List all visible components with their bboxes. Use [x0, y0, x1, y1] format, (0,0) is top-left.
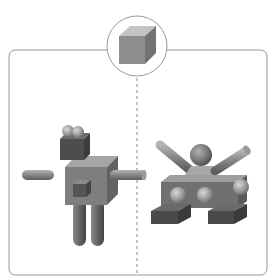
robot-left-arm	[22, 170, 54, 180]
creature-left-foot	[151, 204, 191, 224]
creature-left-arm	[160, 145, 190, 170]
creature-head	[190, 144, 212, 166]
robot-right-arm	[110, 170, 147, 180]
robot-chest-cube	[73, 180, 91, 197]
creature-right-arm	[215, 144, 252, 171]
left-panel-robot	[22, 125, 147, 246]
right-panel-creature	[151, 144, 252, 224]
figure-canvas	[0, 0, 273, 280]
cube-icon	[119, 26, 156, 64]
robot-legs	[73, 200, 104, 246]
reference-cube-badge	[107, 16, 167, 76]
robot-body	[65, 156, 118, 205]
